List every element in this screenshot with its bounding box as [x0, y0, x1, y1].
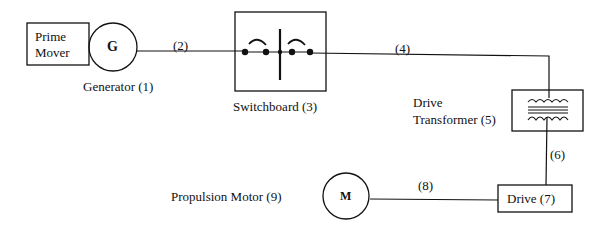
transformer-coil-icon — [528, 100, 568, 121]
propulsion-motor-label: Propulsion Motor (9) — [171, 189, 282, 204]
connection-2-label: (2) — [173, 38, 188, 53]
transformer-label-2: Transformer (5) — [413, 112, 496, 127]
connection-4-label: (4) — [395, 41, 410, 56]
generator-label: Generator (1) — [83, 79, 153, 94]
breaker-switch-icon — [242, 29, 313, 80]
switchboard-label: Switchboard (3) — [233, 99, 317, 114]
connection-6-label: (6) — [550, 147, 565, 162]
drive-label: Drive (7) — [507, 191, 555, 206]
motor-symbol: M — [340, 189, 351, 204]
generator-symbol: G — [107, 39, 118, 54]
connection-4-line — [310, 53, 549, 98]
connection-8-label: (8) — [418, 178, 433, 193]
prime-mover-label-1: Prime — [35, 29, 66, 44]
prime-mover-label-2: Mover — [35, 45, 70, 60]
transformer-label-1: Drive — [413, 95, 443, 110]
connection-6-line — [546, 117, 547, 185]
connection-8-line — [370, 199, 498, 200]
